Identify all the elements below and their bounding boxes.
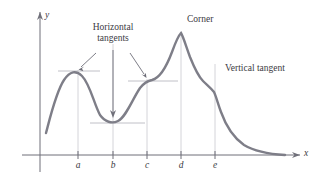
guide-lines bbox=[78, 32, 215, 155]
function-curve bbox=[46, 33, 285, 155]
corner-label: Corner bbox=[187, 14, 213, 25]
y-axis-label: y bbox=[45, 10, 49, 20]
horizontal-tangents-label: Horizontal tangents bbox=[80, 22, 146, 43]
tick-label-a: a bbox=[71, 160, 85, 170]
tangent-segments bbox=[58, 71, 178, 123]
tick-label-d: d bbox=[174, 160, 188, 170]
derivative-graph-figure: Horizontal tangents Corner Vertical tang… bbox=[0, 0, 321, 178]
annotation-arrows bbox=[79, 50, 147, 118]
arrow-line-to-c bbox=[130, 53, 144, 74]
axes bbox=[22, 12, 300, 172]
vertical-tangent-label: Vertical tangent bbox=[225, 63, 285, 74]
x-axis-label: x bbox=[304, 148, 308, 158]
tick-label-c: c bbox=[140, 160, 154, 170]
arrow-line-to-a bbox=[81, 53, 96, 67]
graph-canvas bbox=[0, 0, 321, 178]
horizontal-tangents-label-line2: tangents bbox=[80, 33, 146, 44]
horizontal-tangents-label-line1: Horizontal bbox=[80, 22, 146, 33]
tick-label-b: b bbox=[106, 160, 120, 170]
tick-label-e: e bbox=[208, 160, 222, 170]
